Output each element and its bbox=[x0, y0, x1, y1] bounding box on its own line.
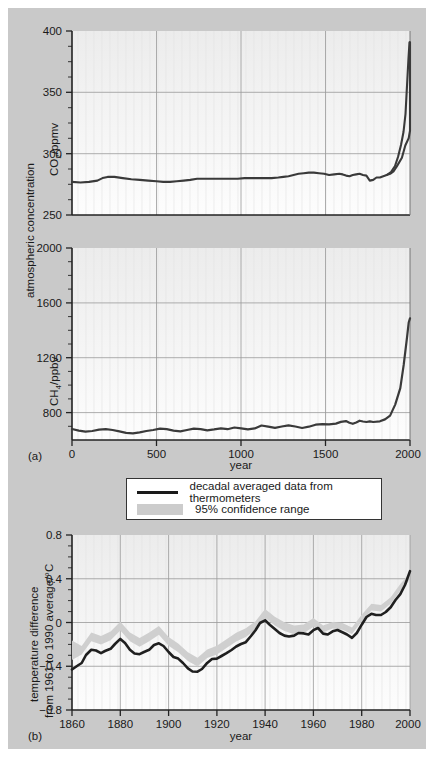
temp-xtick-1980: 1980 bbox=[349, 718, 375, 730]
temp-ytick-0: 0 bbox=[56, 617, 62, 629]
temp-xaxis-title: year bbox=[230, 730, 253, 742]
ch4-xaxis-title: year bbox=[230, 459, 253, 471]
ch4-ytick-800: 800 bbox=[43, 407, 62, 419]
ch4-ytick-2000: 2000 bbox=[36, 242, 62, 254]
ch4-panel: CH4/ppbv bbox=[8, 236, 426, 468]
ch4-axis-label: CH4/ppbv bbox=[48, 357, 63, 406]
co2-ytick-250: 250 bbox=[43, 209, 62, 221]
temperature-panel: temperature difference from 1961 to 1990… bbox=[8, 520, 426, 749]
legend-row-line: decadal averaged data from thermometers bbox=[137, 484, 381, 500]
temp-xtick-2000: 2000 bbox=[395, 718, 421, 730]
temperature-axis-label-line2: from 1961 to 1990 average/°C bbox=[43, 564, 55, 718]
legend-row-band: 95% confidence range bbox=[137, 501, 309, 517]
co2-ytick-400: 400 bbox=[43, 25, 62, 37]
ch4-xtick-500: 500 bbox=[147, 448, 166, 460]
temp-xtick-1960: 1960 bbox=[301, 718, 327, 730]
temp-xtick-1880: 1880 bbox=[108, 718, 134, 730]
temp-ytick-08: 0.8 bbox=[46, 529, 62, 541]
temp-xtick-1940: 1940 bbox=[252, 718, 278, 730]
panel-a-label: (a) bbox=[28, 450, 42, 462]
ch4-ytick-1600: 1600 bbox=[36, 297, 62, 309]
legend-band-swatch bbox=[137, 504, 183, 515]
ch4-xtick-1500: 1500 bbox=[313, 448, 339, 460]
temperature-svg: 0.8 0.4 0 −0.4 −0.8 1860 1880 1900 1920 … bbox=[8, 520, 426, 749]
co2-svg: 400 350 300 250 bbox=[8, 8, 426, 236]
legend-line-swatch bbox=[137, 491, 178, 494]
temp-xtick-1920: 1920 bbox=[204, 718, 230, 730]
co2-panel: CO2/ppmv bbox=[8, 8, 426, 236]
ch4-svg: 2000 1600 1200 800 0 500 1000 1500 2000 … bbox=[8, 236, 426, 468]
co2-ytick-350: 350 bbox=[43, 86, 62, 98]
temp-xtick-1900: 1900 bbox=[156, 718, 182, 730]
co2-axis-label: CO2/ppmv bbox=[48, 123, 63, 176]
panel-b-label: (b) bbox=[28, 730, 42, 742]
figure-container: atmospheric concentration CO2/ppmv bbox=[8, 8, 426, 749]
temp-xtick-1860: 1860 bbox=[59, 718, 85, 730]
legend-box: decadal averaged data from thermometers … bbox=[126, 478, 382, 520]
temperature-axis-label-line1: temperature difference bbox=[28, 587, 40, 703]
ch4-xtick-0: 0 bbox=[69, 448, 75, 460]
legend-band-label: 95% confidence range bbox=[195, 503, 309, 515]
ch4-xtick-2000: 2000 bbox=[395, 448, 421, 460]
